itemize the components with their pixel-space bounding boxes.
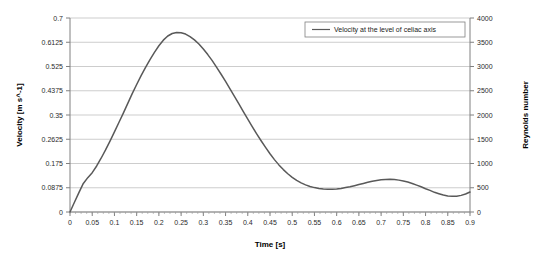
- x-tick-label: 0.65: [352, 219, 366, 226]
- y-tick-label: 0.7: [53, 15, 63, 22]
- y2-tick-label: 500: [477, 184, 489, 191]
- x-tick-label: 0.35: [219, 219, 233, 226]
- y2-tick-label: 2000: [477, 112, 493, 119]
- y2-tick-label: 1000: [477, 160, 493, 167]
- y-axis-title: Velocity [m s^-1]: [15, 83, 24, 147]
- y2-tick-label: 2500: [477, 87, 493, 94]
- y-tick-label: 0.2625: [42, 136, 64, 143]
- x-tick-label: 0.6: [332, 219, 342, 226]
- y-tick-label: 0.6125: [42, 39, 64, 46]
- x-tick-label: 0.75: [397, 219, 411, 226]
- y2-tick-label: 3500: [477, 39, 493, 46]
- x-tick-label: 0.15: [130, 219, 144, 226]
- x-tick-label: 0.1: [110, 219, 120, 226]
- y-tick-label: 0.525: [45, 63, 63, 70]
- x-tick-label: 0.85: [441, 219, 455, 226]
- y-tick-label: 0.175: [45, 160, 63, 167]
- x-tick-label: 0.3: [198, 219, 208, 226]
- x-axis-title: Time [s]: [255, 240, 286, 249]
- y2-tick-label: 3000: [477, 63, 493, 70]
- y2-axis-title: Reynolds number: [521, 81, 530, 149]
- x-tick-label: 0.05: [85, 219, 99, 226]
- x-tick-label: 0.7: [376, 219, 386, 226]
- y-tick-label: 0.35: [49, 112, 63, 119]
- y2-tick-label: 0: [477, 209, 481, 216]
- y2-tick-label: 1500: [477, 136, 493, 143]
- y-tick-label: 0: [59, 209, 63, 216]
- x-tick-label: 0: [68, 219, 72, 226]
- velocity-reynolds-line-chart: 00.08750.1750.26250.350.43750.5250.61250…: [0, 0, 544, 260]
- x-tick-label: 0.9: [465, 219, 475, 226]
- chart-container: 00.08750.1750.26250.350.43750.5250.61250…: [0, 0, 544, 260]
- y2-tick-label: 4000: [477, 15, 493, 22]
- legend-label: Velocity at the level of celiac axis: [334, 26, 436, 34]
- y-tick-label: 0.4375: [42, 87, 64, 94]
- x-tick-label: 0.55: [308, 219, 322, 226]
- x-tick-label: 0.25: [174, 219, 188, 226]
- legend[interactable]: Velocity at the level of celiac axis: [305, 22, 465, 37]
- x-tick-label: 0.8: [421, 219, 431, 226]
- x-tick-label: 0.4: [243, 219, 253, 226]
- x-tick-label: 0.2: [154, 219, 164, 226]
- y-tick-label: 0.0875: [42, 184, 64, 191]
- x-tick-label: 0.5: [287, 219, 297, 226]
- x-tick-label: 0.45: [263, 219, 277, 226]
